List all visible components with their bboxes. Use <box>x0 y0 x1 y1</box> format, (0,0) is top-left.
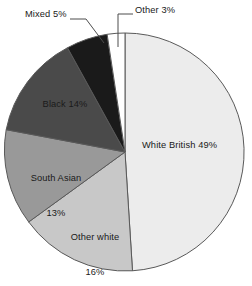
slice-label-south-asian: South Asian 13% <box>16 150 96 242</box>
pie-chart: White British 49% Other white 16% South … <box>0 0 252 286</box>
slice-label-white-british: White British 49% <box>142 140 217 152</box>
slice-label-south-asian-line1: South Asian <box>16 173 96 185</box>
pie-slice-white-british[interactable] <box>125 33 244 271</box>
slice-label-south-asian-line2: 13% <box>16 208 96 220</box>
slice-label-other: Other 3% <box>135 5 175 17</box>
slice-label-black: Black 14% <box>30 99 100 111</box>
slice-label-other-white-line2: 16% <box>58 267 132 279</box>
slice-label-mixed: Mixed 5% <box>25 9 67 21</box>
